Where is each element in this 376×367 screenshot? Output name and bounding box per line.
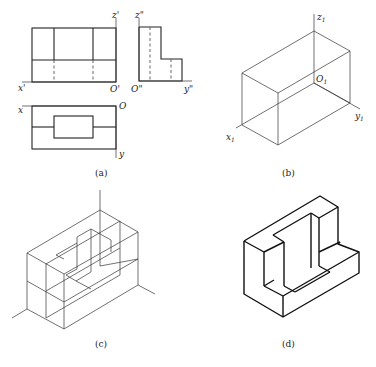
z1-label: z1 (316, 12, 326, 23)
front-view: z' x' O' (18, 10, 120, 94)
top-y-label: y (118, 149, 125, 159)
panel-c-construction: (c) (12, 190, 155, 349)
caption-c: (c) (95, 339, 107, 349)
top-o-label: O (119, 101, 127, 111)
panel-a-three-views: z' x' O' z" O" y" x O y (a) (18, 10, 193, 178)
panel-b-bounding-box: z1 O1 y1 x1 (b) (226, 12, 364, 178)
isometric-figure: z' x' O' z" O" y" x O y (a) (0, 0, 376, 367)
top-x-label: x (18, 105, 23, 115)
front-x-label: x' (18, 83, 26, 93)
front-z-label: z' (111, 10, 119, 20)
x1-label: x1 (226, 132, 235, 143)
top-view: x O y (18, 101, 127, 159)
o1-label: O1 (316, 74, 327, 85)
front-o-label: O' (110, 84, 120, 94)
side-y-label: y" (183, 84, 193, 94)
caption-b: (b) (282, 168, 295, 178)
side-o-label: O" (131, 84, 143, 94)
caption-a: (a) (95, 168, 107, 178)
caption-d: (d) (282, 339, 295, 349)
side-z-label: z" (134, 10, 144, 20)
panel-d-isometric: (d) (244, 196, 359, 349)
side-view: z" O" y" (131, 10, 193, 94)
y1-label: y1 (354, 111, 364, 122)
